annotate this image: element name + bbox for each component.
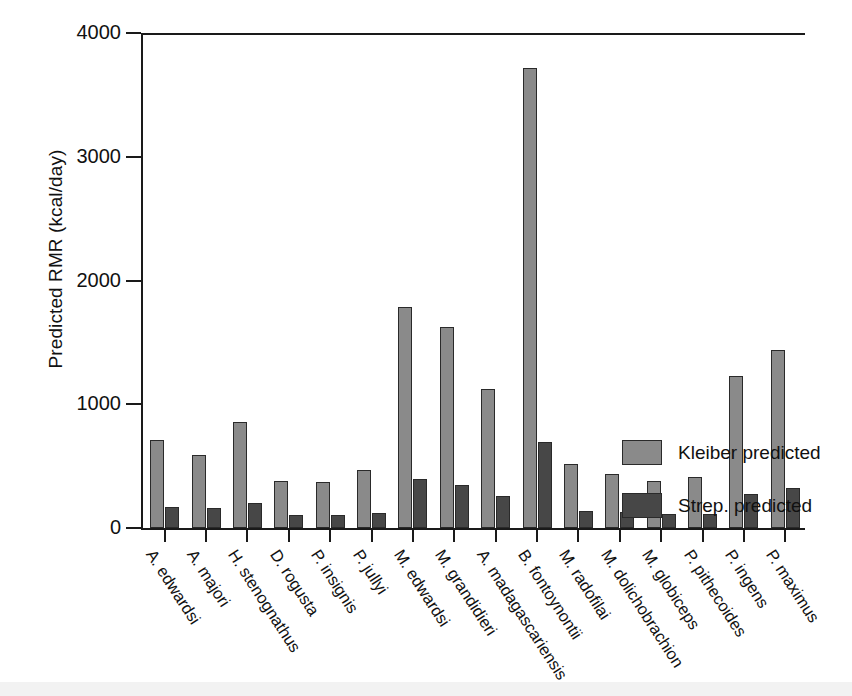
legend-item-kleiber: Kleiber predicted	[622, 440, 821, 465]
chart-legend: Kleiber predicted Strep. predicted	[622, 440, 821, 546]
x-axis-labels: A. edwardsiA. majoriH. stenognathusD. ro…	[0, 0, 852, 696]
legend-swatch-kleiber	[622, 440, 662, 465]
x-axis-label: P. jullyi	[349, 546, 392, 598]
legend-label-strep: Strep. predicted	[678, 495, 812, 517]
scan-artifact-strip	[0, 682, 852, 696]
bar-chart-figure: Predicted RMR (kcal/day) 010002000300040…	[0, 0, 852, 696]
legend-item-strep: Strep. predicted	[622, 493, 821, 518]
x-axis-label: P. maximus	[762, 546, 823, 626]
legend-swatch-strep	[622, 493, 662, 518]
legend-label-kleiber: Kleiber predicted	[678, 442, 821, 464]
